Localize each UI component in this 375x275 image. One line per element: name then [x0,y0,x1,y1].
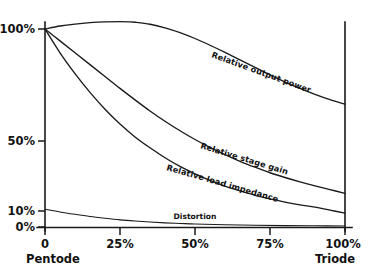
y-ticks-group: 100% 50% 10% 0% [0,22,45,234]
y-tick-label-100: 100% [0,22,35,36]
x-tick-label-25: 25% [106,237,134,251]
curve-relative-load-impedance [45,29,345,213]
x-ticks-group: 0 25% 50% 75% 100% [41,228,361,252]
x-axis-right-end-label: Triode [315,252,355,266]
series-curves-group [45,22,345,226]
axes-group [37,22,352,231]
x-tick-label-75: 75% [256,237,284,251]
series-label-distortion: Distortion [174,212,217,221]
x-axis-left-end-label: Pentode [26,252,80,266]
curve-relative-stage-gain [45,29,345,193]
axis-end-labels-group: Pentode Triode [26,252,355,266]
line-chart: 100% 50% 10% 0% 0 25% 50% 75% 100% Pento… [0,0,375,275]
x-tick-label-50: 50% [181,237,209,251]
x-tick-label-0: 0 [41,237,49,251]
x-tick-label-100: 100% [325,237,361,251]
y-tick-label-10: 10% [7,204,35,218]
y-tick-label-0: 0% [15,220,35,234]
series-label-relative-stage-gain: Relative stage gain [199,140,289,176]
series-label-relative-output-power: Relative output power [210,49,313,95]
y-tick-label-50: 50% [7,134,35,148]
chart-container: 100% 50% 10% 0% 0 25% 50% 75% 100% Pento… [0,0,375,275]
